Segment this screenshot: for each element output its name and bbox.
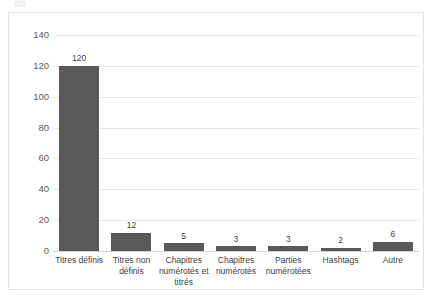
bar[interactable] [321,248,361,251]
y-axis: 020406080100120140 [13,35,49,251]
y-axis-tick-label: 100 [15,92,49,102]
bar[interactable] [59,66,99,251]
y-axis-tick-label: 60 [15,154,49,164]
bar[interactable] [216,246,256,251]
bar[interactable] [373,242,413,251]
x-axis-category-label: Titres non définis [105,255,157,277]
y-axis-tick-label: 80 [15,123,49,133]
bar-slot: 120 [53,35,105,251]
x-axis-category-label: Parties numérotées [262,255,314,277]
bar-value-label: 5 [181,232,186,241]
cropped-top-artifact [14,0,26,7]
x-axis-category-label: Hashtags [314,255,366,266]
bar-slot: 5 [158,35,210,251]
bar-value-label: 12 [127,221,136,230]
bar[interactable] [164,243,204,251]
bar[interactable] [111,233,151,252]
gridline [53,251,419,252]
x-axis: Titres définisTitres non définisChapitre… [53,255,419,299]
x-axis-category-label: Chapitres numérotés [210,255,262,277]
y-axis-tick-label: 20 [15,215,49,225]
x-axis-category-label: Titres définis [53,255,105,266]
y-axis-tick-label: 40 [15,185,49,195]
bar-slot: 6 [367,35,419,251]
bar-value-label: 6 [390,230,395,239]
bar-slot: 2 [314,35,366,251]
y-axis-tick-label: 120 [15,61,49,71]
bar-value-label: 2 [338,236,343,245]
bar-slot: 3 [210,35,262,251]
bar-value-label: 3 [234,235,239,244]
bar-slot: 12 [105,35,157,251]
x-axis-category-label: Chapitres numérotés et titrés [158,255,210,288]
y-axis-tick-label: 140 [15,30,49,40]
bar-value-label: 120 [72,54,86,63]
bar[interactable] [268,246,308,251]
chart-frame: 020406080100120140 1201253326 Titres déf… [8,12,424,290]
y-axis-tick-label: 0 [15,246,49,256]
bar-value-label: 3 [286,235,291,244]
bar-slot: 3 [262,35,314,251]
bar-series: 1201253326 [53,35,419,251]
x-axis-category-label: Autre [367,255,419,266]
